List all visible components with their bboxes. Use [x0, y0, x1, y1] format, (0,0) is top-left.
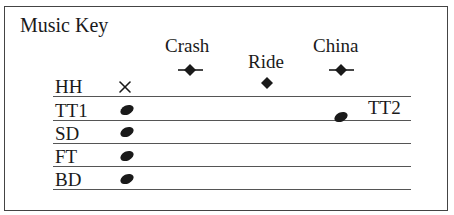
crash-diamond-icon — [178, 64, 203, 76]
ft-notehead-icon — [119, 149, 136, 163]
ride-diamond-icon — [261, 77, 273, 89]
china-diamond-icon — [329, 64, 354, 76]
sd-notehead-icon — [119, 125, 136, 139]
hh-x-notehead-icon — [120, 82, 130, 92]
tt1-notehead-icon — [119, 103, 136, 117]
tt2-notehead-icon — [333, 110, 350, 124]
bd-notehead-icon — [119, 172, 136, 186]
notation-glyphs — [0, 0, 454, 215]
